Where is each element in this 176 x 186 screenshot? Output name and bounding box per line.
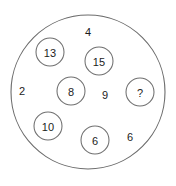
- node-label-10: 10: [42, 121, 54, 133]
- free-number-2: 2: [19, 85, 25, 97]
- circled-number-node[interactable]: ?: [126, 78, 154, 106]
- circled-number-node[interactable]: 13: [36, 38, 64, 66]
- circled-number-node[interactable]: 6: [81, 126, 109, 154]
- circled-number-node[interactable]: 15: [85, 47, 113, 75]
- free-number-4: 4: [85, 26, 91, 38]
- circle-number-puzzle: 13 15 8 ? 10 6 4 2 9 6: [0, 0, 176, 186]
- node-label-8: 8: [68, 86, 74, 98]
- node-label-15: 15: [93, 56, 105, 68]
- node-label-6: 6: [92, 135, 98, 147]
- free-number-6-outer: 6: [127, 131, 133, 143]
- free-number-9: 9: [102, 89, 108, 101]
- diagram-canvas: 13 15 8 ? 10 6 4 2 9 6: [0, 0, 176, 186]
- circled-number-node[interactable]: 8: [57, 77, 85, 105]
- node-label-13: 13: [44, 47, 56, 59]
- circled-number-node[interactable]: 10: [34, 112, 62, 140]
- node-label-unknown: ?: [137, 87, 143, 99]
